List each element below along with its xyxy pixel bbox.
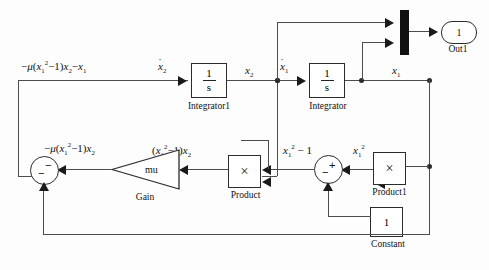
outport-value: 1 xyxy=(457,27,462,38)
constant-value: 1 xyxy=(384,216,390,228)
product1-symbol: × xyxy=(386,161,394,177)
arrow-sumleft-bottom-input xyxy=(39,182,49,191)
wire-sum-to-left-riser xyxy=(18,80,19,176)
block-label-out1: Out1 xyxy=(441,44,475,54)
block-product[interactable]: × xyxy=(228,155,261,188)
block-integrator1[interactable]: 1 s xyxy=(191,63,227,98)
signal-label-x1: x1 xyxy=(392,64,400,78)
signal-label-gain-out: −μ(x12−1)x2 xyxy=(44,141,95,156)
integrator1-numerator: 1 xyxy=(206,68,212,80)
integrator-numerator: 1 xyxy=(324,68,330,80)
block-mux[interactable] xyxy=(400,10,409,55)
wire-to-product1-top xyxy=(404,166,429,167)
wire-x2-down xyxy=(277,80,278,176)
wire-xdot1-up-to-mux xyxy=(277,22,278,80)
block-product1[interactable]: × xyxy=(373,152,406,185)
arrow-into-integrator1 xyxy=(178,76,187,86)
sum-right-sign-minus: − xyxy=(322,167,328,178)
integrator1-denominator: s xyxy=(207,81,211,93)
wire-x1-down-to-product1 xyxy=(429,80,430,166)
arrow-product-input-1 xyxy=(262,165,271,175)
signal-label-x1-squared: x12 xyxy=(353,143,365,158)
wire-integrator-to-x1node xyxy=(345,80,430,81)
wire-sumleft-out xyxy=(18,176,32,177)
sum-left-sign-top: − xyxy=(45,160,51,171)
block-integrator[interactable]: 1 s xyxy=(309,63,345,98)
wire-gain-to-sumleft xyxy=(62,169,112,170)
block-outport-out1[interactable]: 1 xyxy=(441,21,477,44)
wire-product-top-feed xyxy=(241,140,268,141)
sum-right-sign-plus: + xyxy=(329,160,335,171)
arrow-product-input-2 xyxy=(262,177,271,187)
arrow-into-integrator xyxy=(297,76,306,86)
signal-label-sumright-out: x12 − 1 xyxy=(283,143,312,158)
arrow-sumright-bottom-input xyxy=(323,182,333,191)
signal-label-x2: x2 xyxy=(245,64,253,78)
signal-label-sum-out: −μ(x12−1)x2−x1 xyxy=(21,59,86,74)
integrator-denominator: s xyxy=(325,81,329,93)
gain-value: mu xyxy=(145,164,158,175)
wire-product-to-gain xyxy=(185,169,228,170)
sum-left-sign-bottom: − xyxy=(38,168,44,179)
arrow-mux-input-1 xyxy=(385,18,394,28)
arrow-into-outport xyxy=(429,27,438,37)
block-label-constant: Constant xyxy=(362,239,414,249)
block-label-product: Product xyxy=(218,190,273,200)
arrow-mux-input-2 xyxy=(385,38,394,48)
block-label-integrator1: Integrator1 xyxy=(184,101,234,111)
wire-sumright-to-product xyxy=(268,169,314,170)
wire-product1-to-sumright xyxy=(346,169,373,170)
wire-constant-riser xyxy=(328,190,329,216)
wire-bottom-feedback xyxy=(43,234,430,235)
product-symbol: × xyxy=(241,164,249,180)
block-label-integrator: Integrator xyxy=(303,101,353,111)
wire-xdot1-into-mux xyxy=(277,22,390,23)
block-diagram-canvas: −μ(x12−1)x2−x1 ˙x2 x2 ˙x1 x1 −μ(x12−1)x2… xyxy=(0,0,489,270)
wire-constant-to-left xyxy=(328,216,371,217)
wire-integrator1-to-node xyxy=(227,80,277,81)
wire-left-to-integrator1 xyxy=(18,80,188,81)
arrow-into-gain xyxy=(179,165,188,175)
block-label-gain: Gain xyxy=(120,192,170,202)
wire-product-top-riser xyxy=(268,140,269,169)
signal-label-xdot1: ˙x1 xyxy=(280,60,288,74)
wire-x1-up-to-mux xyxy=(362,42,363,80)
block-label-product1: Product1 xyxy=(362,187,417,197)
wire-bottom-feedback-riser xyxy=(43,190,44,234)
block-constant[interactable]: 1 xyxy=(370,207,403,237)
signal-label-xdot2: ˙x2 xyxy=(158,60,166,74)
